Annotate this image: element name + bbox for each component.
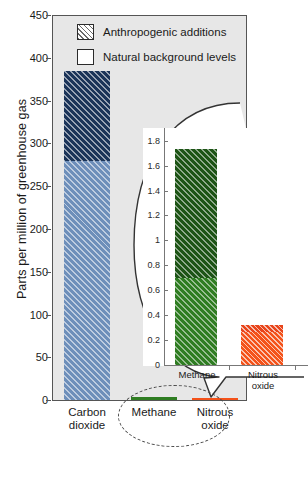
inset-y-tick-1-6: 1.6 [136, 162, 160, 171]
inset-bar-nitrous-oxide-anthropogenic [241, 325, 283, 332]
y-tick-50: 50 [2, 352, 48, 363]
inset-y-tick-mark-0-8 [164, 265, 168, 266]
inset-y-axis-line [164, 128, 165, 366]
y-tick-mark-50 [46, 357, 51, 358]
inset-x-axis-line [164, 365, 308, 366]
inset-background [143, 128, 308, 366]
inset-bar-nitrous-oxide-natural [241, 332, 283, 365]
inset-y-tick-mark-0-4 [164, 315, 168, 316]
legend-item-natural: Natural background levels [77, 49, 236, 65]
inset-y-tick-mark-0-2 [164, 340, 168, 341]
y-tick-mark-350 [46, 101, 51, 102]
inset-y-tick-1-4: 1.4 [136, 187, 160, 196]
inset-x-label-methane-line1: Methane [165, 369, 229, 380]
y-tick-450: 450 [2, 10, 48, 21]
inset-bar-methane-anthropogenic [175, 149, 217, 278]
inset-x-separator-2 [295, 365, 296, 370]
y-tick-mark-400 [46, 58, 51, 59]
highlight-ellipse [118, 385, 230, 447]
inset-x-label-nitrous-oxide: Nitrous oxide [232, 369, 294, 391]
y-axis-line [52, 15, 53, 401]
y-tick-mark-250 [46, 186, 51, 187]
inset-bar-methane [175, 149, 217, 365]
inset-x-label-nitrous-oxide-line2: oxide [232, 380, 294, 391]
bar-carbon-dioxide [64, 71, 110, 400]
inset-x-label-nitrous-oxide-line1: Nitrous [232, 369, 294, 380]
legend-label-natural: Natural background levels [103, 51, 236, 63]
bar-carbon-dioxide-anthropogenic [64, 71, 110, 161]
inset-y-tick-mark-1-4 [164, 191, 168, 192]
legend-swatch-natural-icon [77, 49, 94, 65]
greenhouse-gas-chart: 450 400 350 300 250 200 150 100 50 0 Par… [0, 0, 308, 494]
inset-y-tick-mark-1-8 [164, 141, 168, 142]
inset-bar-methane-natural [175, 278, 217, 365]
y-axis-label: Parts per million of greenhouse gas [15, 59, 29, 339]
y-tick-0: 0 [2, 395, 48, 406]
inset-y-tick-1: 1 [136, 236, 160, 245]
legend-item-anthropogenic: Anthropogenic additions [77, 24, 236, 40]
x-label-carbon-dioxide-line2: dioxide [57, 419, 117, 432]
inset-chart: 1.8 1.6 1.4 1.2 1 0.8 0.6 0.4 0.2 0 [143, 128, 308, 366]
inset-y-tick-0-2: 0.2 [136, 336, 160, 345]
x-label-carbon-dioxide: Carbon dioxide [57, 406, 117, 432]
y-tick-mark-0 [46, 400, 51, 401]
legend-swatch-anthropogenic-icon [77, 24, 94, 40]
bar-carbon-dioxide-natural [64, 161, 110, 400]
y-tick-mark-100 [46, 315, 51, 316]
inset-y-tick-1-2: 1.2 [136, 211, 160, 220]
inset-y-tick-0: 0 [136, 361, 160, 370]
inset-y-tick-mark-1 [164, 240, 168, 241]
y-tick-mark-200 [46, 229, 51, 230]
inset-x-label-methane: Methane [165, 369, 229, 380]
inset-y-tick-mark-0-6 [164, 290, 168, 291]
inset-y-tick-0-8: 0.8 [136, 261, 160, 270]
x-label-carbon-dioxide-line1: Carbon [57, 406, 117, 419]
inset-x-separator-1 [229, 365, 230, 370]
y-tick-mark-450 [46, 15, 51, 16]
legend-label-anthropogenic: Anthropogenic additions [103, 26, 226, 38]
inset-y-tick-mark-0 [164, 365, 168, 366]
inset-y-tick-mark-1-2 [164, 215, 168, 216]
inset-y-tick-1-8: 1.8 [136, 137, 160, 146]
inset-y-tick-mark-1-6 [164, 166, 168, 167]
inset-bar-nitrous-oxide [241, 325, 283, 365]
y-tick-mark-150 [46, 272, 51, 273]
inset-y-tick-0-4: 0.4 [136, 311, 160, 320]
legend: Anthropogenic additions Natural backgrou… [77, 24, 236, 74]
y-tick-mark-300 [46, 143, 51, 144]
inset-y-tick-0-6: 0.6 [136, 286, 160, 295]
plot-top-border [52, 15, 247, 16]
